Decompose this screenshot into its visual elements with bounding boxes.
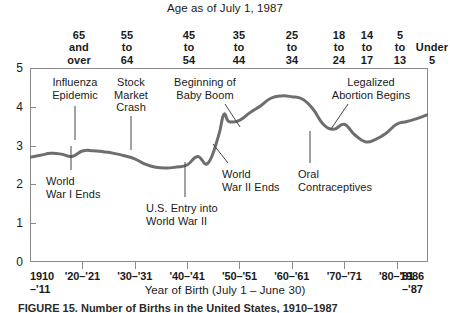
chart-annotation: Oral Contraceptives	[298, 168, 386, 193]
chart-annotation: Beginning of Baby Boom	[163, 76, 247, 101]
figure-caption: FIGURE 15. Number of Births in the Unite…	[18, 302, 450, 313]
chart-annotation: World War II Ends	[222, 168, 292, 193]
annotation-leader-line	[213, 144, 228, 163]
annotation-leader-line	[331, 104, 348, 129]
chart-annotation: Influenza Epidemic	[44, 76, 106, 101]
x-axis-title: Year of Birth (July 1 – June 30)	[0, 284, 450, 296]
chart-annotation: Legalized Abortion Begins	[325, 76, 417, 101]
chart-annotation: World War I Ends	[46, 175, 116, 200]
annotation-leader-lines	[0, 0, 450, 313]
chart-figure: Age as of July 1, 1987 65andover55to6445…	[0, 0, 450, 313]
chart-annotation: Stock Market Crash	[104, 76, 158, 114]
chart-annotation: U.S. Entry into World War II	[146, 202, 238, 227]
annotation-leader-line	[225, 104, 240, 127]
